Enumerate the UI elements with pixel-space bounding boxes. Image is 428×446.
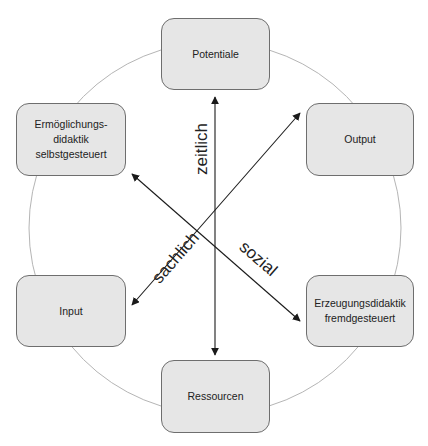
node-ermoeglichungsdidaktik-label: Ermöglichungs- didaktik selbstgesteuert <box>35 117 108 162</box>
node-ressourcen: Ressourcen <box>161 360 270 433</box>
node-ressourcen-label: Ressourcen <box>187 389 243 404</box>
node-erzeugungsdidaktik-label: Erzeugungsdidaktik fremdgesteuert <box>314 296 406 326</box>
axis-sozial-arrow <box>132 174 300 321</box>
node-input: Input <box>16 275 126 347</box>
node-ermoeglichungsdidaktik: Ermöglichungs- didaktik selbstgesteuert <box>16 103 126 176</box>
node-erzeugungsdidaktik: Erzeugungsdidaktik fremdgesteuert <box>306 275 414 347</box>
node-output: Output <box>306 103 414 176</box>
axis-label-zeitlich: zeitlich <box>192 114 212 184</box>
node-potentiale: Potentiale <box>161 18 270 90</box>
node-potentiale-label: Potentiale <box>192 47 239 62</box>
node-input-label: Input <box>59 304 82 319</box>
node-output-label: Output <box>344 132 376 147</box>
